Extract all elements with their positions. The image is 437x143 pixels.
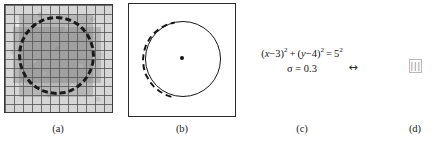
caption-c: (c) xyxy=(282,123,322,134)
panel-c-equations: (x−3)2 + (y−4)2 = 52 σ = 0.3 xyxy=(252,46,352,76)
bars-glyph-icon: ||| xyxy=(410,62,420,71)
caption-a: (a) xyxy=(38,123,78,134)
caption-b: (b) xyxy=(162,123,202,134)
figure-root: (x−3)2 + (y−4)2 = 52 σ = 0.3 ↔ ||| (a) (… xyxy=(0,0,437,143)
caption-d: (d) xyxy=(395,123,435,134)
sigma-equation: σ = 0.3 xyxy=(252,62,352,76)
double-headed-arrow-icon: ↔ xyxy=(344,61,362,73)
dashed-circle-overlay xyxy=(18,16,95,95)
circle-equation: (x−3)2 + (y−4)2 = 52 xyxy=(252,46,352,61)
panel-a-noisy-grid xyxy=(4,4,113,113)
panel-b-fitted-circle xyxy=(128,3,236,117)
circle-center-dot xyxy=(180,56,184,60)
panel-d-glyph-box: ||| xyxy=(409,59,422,73)
